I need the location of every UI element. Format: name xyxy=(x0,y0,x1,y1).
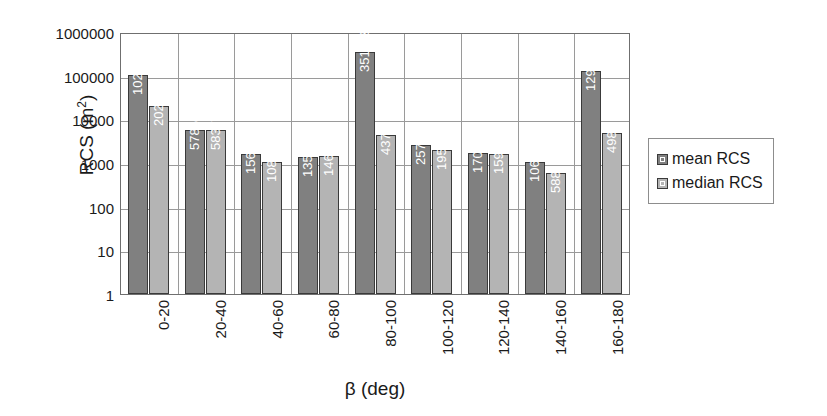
bar-mean[interactable] xyxy=(298,157,318,294)
x-axis-tick-label: 120-140 xyxy=(496,300,511,355)
rcs-bar-chart: RCS (m2) 1000000100000100001000100101 10… xyxy=(0,0,827,416)
bar-group: 10291320206 xyxy=(121,34,178,294)
bar-value-label: 129408 xyxy=(584,47,597,90)
bar-group: 25701958 xyxy=(404,34,461,294)
bar-median[interactable] xyxy=(489,154,509,294)
bar-value-label: 20206 xyxy=(152,90,165,126)
bar-mean[interactable] xyxy=(468,153,488,294)
y-axis-tick-label: 1000000 xyxy=(18,26,114,41)
x-axis-title: β (deg) xyxy=(120,378,630,400)
bar-value-label: 102913 xyxy=(131,52,144,95)
bar-median[interactable] xyxy=(319,156,339,294)
x-axis-tick-label: 60-80 xyxy=(326,300,341,338)
bar-value-label: 1462 xyxy=(322,147,335,176)
legend-item-label: median RCS xyxy=(672,174,763,192)
bar-median[interactable] xyxy=(602,133,622,294)
y-axis-tick-labels: 1000000100000100001000100101 xyxy=(14,0,114,416)
bar-mean[interactable] xyxy=(128,75,148,294)
bar-group: 13591462 xyxy=(291,34,348,294)
legend-item[interactable]: mean RCS xyxy=(657,147,763,171)
x-axis-tick-label: 100-120 xyxy=(440,300,455,355)
bar-mean[interactable] xyxy=(411,145,431,294)
y-axis-tick-label: 100000 xyxy=(18,69,114,84)
y-axis-tick-label: 10000 xyxy=(18,113,114,128)
bar-mean[interactable] xyxy=(185,130,205,294)
bar-value-label: 1359 xyxy=(301,148,314,177)
plot-area: 1029132020657855837156710821359146235169… xyxy=(120,33,630,295)
bar-median[interactable] xyxy=(206,130,226,294)
y-axis-tick-label: 100 xyxy=(18,200,114,215)
x-axis-tick-labels: 0-2020-4040-6060-8080-100100-120120-1401… xyxy=(120,300,630,370)
light-gray-swatch-icon xyxy=(657,178,668,189)
y-axis-tick-label: 10 xyxy=(18,244,114,259)
bar-value-label: 351698 xyxy=(358,28,371,71)
bar-mean[interactable] xyxy=(241,154,261,294)
dark-gray-swatch-icon xyxy=(657,154,668,165)
x-axis-tick-label: 140-160 xyxy=(553,300,568,355)
x-axis-tick-label: 0-20 xyxy=(156,300,171,330)
bar-value-label: 4980 xyxy=(605,124,618,153)
bar-value-label: 1064 xyxy=(528,153,541,182)
legend-item[interactable]: median RCS xyxy=(657,171,763,195)
bar-group: 17001593 xyxy=(461,34,518,294)
x-axis-tick-label: 40-60 xyxy=(270,300,285,338)
bar-value-label: 1700 xyxy=(471,144,484,173)
bar-mean[interactable] xyxy=(355,52,375,294)
bar-group: 1064588 xyxy=(518,34,575,294)
legend-item-label: mean RCS xyxy=(672,150,750,168)
bar-mean[interactable] xyxy=(581,71,601,294)
y-axis-tick-label: 1 xyxy=(18,288,114,303)
x-axis-tick-label: 160-180 xyxy=(610,300,625,355)
bar-group: 1294084980 xyxy=(574,34,631,294)
bar-value-label: 2570 xyxy=(414,136,427,165)
x-axis-tick-label: 80-100 xyxy=(383,300,398,347)
x-axis-tick-label: 20-40 xyxy=(213,300,228,338)
bar-value-label: 588 xyxy=(549,171,562,193)
bar-value-label: 5837 xyxy=(209,121,222,150)
bar-group: 15671082 xyxy=(234,34,291,294)
bar-group: 3516984370 xyxy=(348,34,405,294)
y-axis-tick-label: 1000 xyxy=(18,157,114,172)
bar-value-label: 1593 xyxy=(492,145,505,174)
bar-median[interactable] xyxy=(376,135,396,294)
bar-value-label: 1567 xyxy=(244,146,257,175)
bar-median[interactable] xyxy=(432,150,452,294)
bar-value-label: 1082 xyxy=(265,153,278,182)
bar-value-label: 5785 xyxy=(188,121,201,150)
bar-value-label: 4370 xyxy=(379,126,392,155)
bar-value-label: 1958 xyxy=(435,141,448,170)
bar-group: 57855837 xyxy=(178,34,235,294)
bar-median[interactable] xyxy=(149,106,169,294)
chart-legend: mean RCSmedian RCS xyxy=(648,138,774,204)
